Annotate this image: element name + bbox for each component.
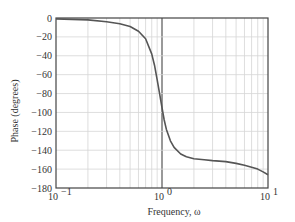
y-tick-label: −160: [31, 164, 52, 175]
phase-plot: 0−20−40−60−80−100−120−140−160−18010−1100…: [0, 0, 295, 222]
x-tick-exponent: 1: [273, 186, 278, 197]
x-tick-exponent: 0: [167, 186, 172, 197]
y-tick-label: −80: [36, 88, 52, 99]
y-tick-label: −20: [36, 31, 52, 42]
x-tick-label: 10: [48, 191, 58, 202]
y-tick-label: 0: [47, 13, 52, 24]
y-tick-label: −40: [36, 50, 52, 61]
y-axis-label: Phase (degrees): [9, 79, 21, 142]
x-tick-label: 10: [154, 191, 164, 202]
y-tick-label: −120: [31, 126, 52, 137]
x-axis-label: Frequency, ω: [147, 206, 201, 217]
y-tick-label: −100: [31, 107, 52, 118]
y-tick-label: −60: [36, 69, 52, 80]
x-tick-exponent: −1: [61, 186, 72, 197]
y-tick-label: −140: [31, 145, 52, 156]
x-tick-label: 10: [260, 191, 270, 202]
